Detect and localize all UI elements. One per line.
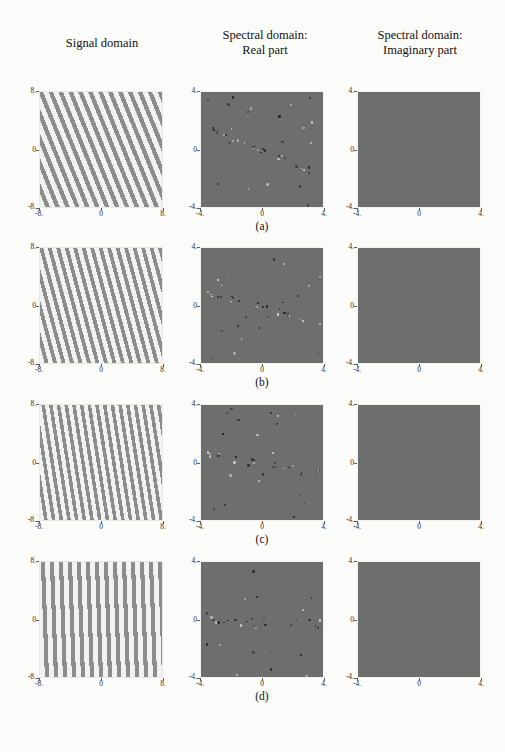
column-header-line2: Real part	[182, 43, 348, 58]
axis-tick-label-y: 4.	[335, 399, 354, 408]
spectral-impulse	[296, 619, 297, 620]
spectral-impulse	[282, 581, 283, 582]
grating-pattern	[40, 92, 162, 207]
column-header-signal-domain: Signal domain	[14, 36, 190, 51]
spectral-impulse	[256, 596, 259, 599]
spectral-impulse	[251, 618, 253, 620]
spectral-impulse	[246, 116, 247, 117]
axis-tick-mark	[197, 91, 200, 92]
spectral-impulse	[253, 459, 255, 461]
grating-pattern	[40, 405, 162, 520]
axis-tick-label-y: 0	[178, 145, 197, 154]
spectral-real-plot-d	[200, 561, 324, 678]
spectral-impulse	[266, 305, 269, 308]
spectral-impulse	[238, 300, 241, 303]
spectral-impulse	[260, 152, 262, 154]
spectral-impulse	[252, 146, 254, 148]
spectral-impulse	[299, 185, 302, 188]
axis-tick-mark	[354, 620, 357, 621]
column-header-spectral-imaginary: Spectral domain: Imaginary part	[340, 28, 500, 58]
axis-tick-mark	[481, 521, 482, 524]
spectral-imaginary-plot-b	[357, 247, 481, 364]
axis-tick-mark	[200, 678, 201, 681]
axis-tick-mark	[324, 208, 325, 211]
axis-tick-mark	[481, 678, 482, 681]
axis-tick-mark	[354, 404, 357, 405]
spectral-impulse	[311, 597, 313, 599]
axis-tick-mark	[36, 306, 39, 307]
spectral-impulse	[310, 142, 312, 144]
axis-tick-mark	[101, 521, 102, 524]
spectral-impulse	[290, 624, 292, 626]
spectral-impulse	[321, 626, 322, 627]
spectral-impulse	[256, 434, 259, 437]
spectral-impulse	[257, 149, 259, 151]
grating-pattern	[40, 562, 162, 677]
spectral-impulse	[237, 419, 240, 422]
spectral-impulse	[253, 462, 255, 464]
spectral-impulse	[252, 651, 255, 654]
spectral-impulse	[308, 619, 310, 621]
axis-tick-mark	[200, 521, 201, 524]
spectral-impulse	[222, 433, 224, 435]
axis-tick-mark	[354, 91, 357, 92]
spectral-impulse	[210, 616, 213, 619]
spectral-impulse	[264, 624, 267, 627]
axis-tick-mark	[197, 620, 200, 621]
flat-gray-field	[358, 248, 480, 363]
axis-tick-mark	[36, 91, 39, 92]
axis-tick-mark	[36, 463, 39, 464]
spectrum-speckle-field	[201, 92, 323, 207]
axis-tick-mark	[163, 678, 164, 681]
spectral-imaginary-plot-d	[357, 561, 481, 678]
axis-tick-label-y: 0	[335, 145, 354, 154]
axis-tick-mark	[419, 521, 420, 524]
spectral-impulse	[221, 578, 222, 579]
spectral-impulse	[217, 130, 219, 132]
axis-tick-mark	[36, 561, 39, 562]
axis-tick-label-y: 8.	[17, 556, 36, 565]
spectral-impulse	[252, 148, 253, 149]
axis-tick-mark	[324, 521, 325, 524]
spectral-impulse	[307, 204, 310, 207]
axis-tick-mark	[354, 247, 357, 248]
axis-tick-mark	[419, 364, 420, 367]
axis-tick-label-y: 4.	[178, 556, 197, 565]
spectral-impulse	[248, 188, 250, 190]
spectral-impulse	[303, 169, 305, 171]
spectral-impulse	[247, 111, 249, 113]
axis-tick-mark	[262, 364, 263, 367]
axis-tick-mark	[36, 150, 39, 151]
signal-domain-plot-d	[39, 561, 163, 678]
spectral-impulse	[217, 621, 220, 624]
spectral-impulse	[247, 464, 250, 467]
spectral-impulse	[212, 619, 214, 621]
axis-tick-mark	[39, 208, 40, 211]
spectral-impulse	[223, 622, 225, 624]
axis-tick-label-y: 0	[17, 145, 36, 154]
spectral-impulse	[255, 307, 257, 309]
spectral-impulse	[213, 508, 216, 511]
spectral-impulse	[227, 103, 229, 105]
spectral-impulse	[220, 296, 222, 298]
spectral-impulse	[274, 462, 276, 464]
spectral-impulse	[272, 452, 274, 454]
spectral-impulse	[275, 467, 276, 468]
spectral-impulse	[319, 323, 321, 325]
spectral-impulse	[287, 315, 289, 317]
spectral-impulse	[309, 97, 311, 99]
spectral-impulse	[230, 301, 232, 303]
axis-tick-mark	[197, 561, 200, 562]
axis-tick-mark	[163, 208, 164, 211]
axis-tick-mark	[354, 306, 357, 307]
axis-tick-mark	[200, 208, 201, 211]
spectral-impulse	[258, 480, 260, 482]
spectral-impulse	[315, 625, 317, 627]
axis-tick-label-y: 0	[335, 615, 354, 624]
spectral-impulse	[302, 127, 304, 129]
spectral-impulse	[227, 620, 228, 621]
spectral-impulse	[258, 327, 260, 329]
spectral-impulse	[231, 266, 232, 267]
spectral-impulse	[211, 296, 213, 298]
spectral-real-plot-c	[200, 404, 324, 521]
